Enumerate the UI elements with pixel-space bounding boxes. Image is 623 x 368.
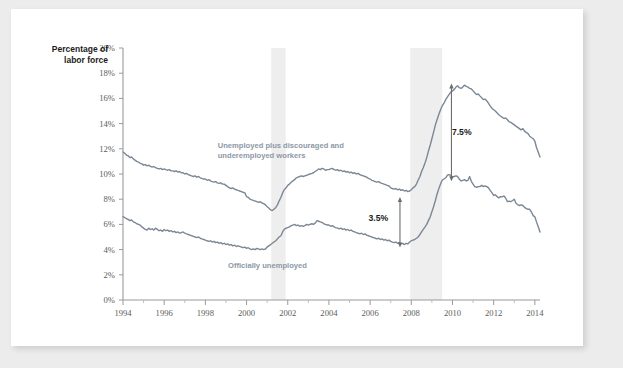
x-tick-label-2004: 2004 [320,308,338,318]
y-tick-label-18: 18% [99,68,115,78]
x-tick-label-1994: 1994 [114,308,132,318]
y-tick-label-6: 6% [104,219,115,229]
series-label-broad-line2: underemployed workers [218,151,306,160]
x-tick-label-2012: 2012 [485,308,502,318]
gap-2010-label: 7.5% [452,127,472,137]
unemployment-line-chart: 0%2%4%6%8%10%12%14%16%18%20%199419961998… [11,9,583,346]
gap-2007-label: 3.5% [369,213,389,223]
x-tick-label-2010: 2010 [444,308,461,318]
y-tick-label-0: 0% [104,295,115,305]
x-tick-label-2002: 2002 [279,308,296,318]
y-tick-label-4: 4% [104,245,115,255]
y-tick-label-12: 12% [99,144,115,154]
x-tick-label-1998: 1998 [197,308,214,318]
chart-plot-area: 0%2%4%6%8%10%12%14%16%18%20%199419961998… [11,9,583,346]
series-label-official: Officially unemployed [228,261,307,270]
y-axis-title-line1: Percentage of [52,44,108,54]
series-label-broad-line1: Unemployed plus discouraged and [218,141,345,150]
y-tick-label-10: 10% [99,169,115,179]
x-tick-label-2008: 2008 [403,308,420,318]
y-tick-label-8: 8% [104,194,115,204]
y-tick-label-16: 16% [99,93,115,103]
series-line-official [123,175,540,250]
x-tick-label-2000: 2000 [238,308,255,318]
y-tick-label-14: 14% [99,119,115,129]
recession-2008-band [410,48,442,300]
y-axis-title-line2: labor force [64,55,108,65]
y-tick-label-2: 2% [104,270,115,280]
x-tick-label-2014: 2014 [526,308,544,318]
chart-card: 0%2%4%6%8%10%12%14%16%18%20%199419961998… [11,9,583,346]
page-background: 0%2%4%6%8%10%12%14%16%18%20%199419961998… [0,0,623,368]
x-tick-label-1996: 1996 [156,308,174,318]
x-tick-label-2006: 2006 [362,308,380,318]
